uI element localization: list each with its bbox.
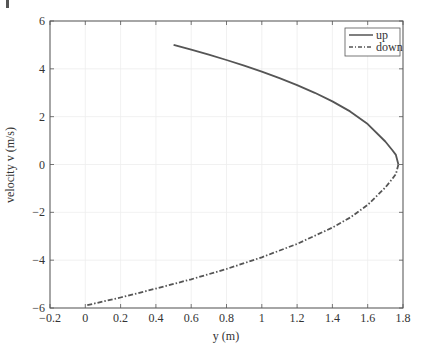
x-tick-label: 1: [259, 311, 265, 325]
x-tick-label: 1.8: [396, 311, 411, 325]
series-up: [174, 45, 399, 165]
y-tick-label: 6: [39, 14, 45, 28]
x-tick-label: 0.8: [219, 311, 234, 325]
x-tick-label: 1.6: [360, 311, 375, 325]
series-down: [85, 165, 398, 306]
plot-series: [85, 45, 398, 306]
y-axis-label: velocity v (m/s): [3, 127, 17, 203]
y-tick-label: 2: [39, 110, 45, 124]
velocity-position-chart: −0.200.20.40.60.811.21.41.61.8−6−4−20246…: [0, 0, 428, 353]
y-tick-label: 0: [39, 158, 45, 172]
legend-label-down: down: [376, 40, 403, 54]
axis-ticks: −0.200.20.40.60.811.21.41.61.8−6−4−20246: [32, 14, 410, 325]
x-tick-label: 1.2: [290, 311, 305, 325]
y-tick-label: −6: [32, 301, 45, 315]
x-tick-label: 0.2: [113, 311, 128, 325]
x-tick-label: 0: [82, 311, 88, 325]
x-tick-label: 0.6: [184, 311, 199, 325]
x-axis-label: y (m): [213, 329, 239, 343]
y-tick-label: −2: [32, 205, 45, 219]
grid-lines: [50, 21, 403, 308]
x-tick-label: 0.4: [148, 311, 163, 325]
legend: up down: [345, 28, 403, 56]
x-tick-label: 1.4: [325, 311, 340, 325]
y-tick-label: 4: [39, 62, 45, 76]
y-tick-label: −4: [32, 253, 45, 267]
